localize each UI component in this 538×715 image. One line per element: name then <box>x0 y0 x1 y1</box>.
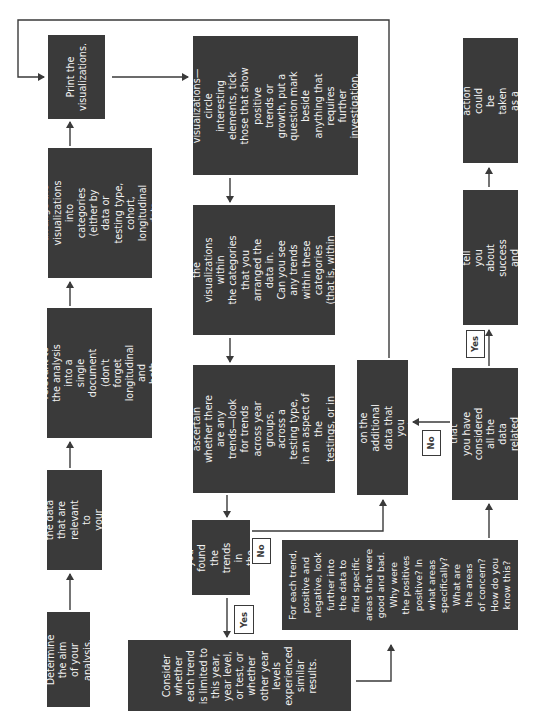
box-copy-visualizations: Copy the visualizations that are relevan… <box>47 308 152 438</box>
box-text: Next, look across categories to ascertai… <box>193 394 335 465</box>
box-text: Choose the data that are relevant to you… <box>47 499 102 541</box>
box-decide-additional-data: Decide on the additional data that you r… <box>357 360 408 495</box>
box-choose-data: Choose the data that are relevant to you… <box>47 470 102 570</box>
box-for-each-trend: For each trend, positive and negative, l… <box>282 540 518 630</box>
box-text: Analyze the annotations that you have ma… <box>193 235 335 306</box>
box-arrange-categories: In this document, arrange the visualizat… <box>48 148 152 278</box>
label-text: Yes <box>470 336 480 352</box>
box-text: Copy the visualizations that are relevan… <box>47 341 152 406</box>
box-text: Consider whether each trend is limited t… <box>160 646 319 705</box>
box-analyze-annotations: Analyze the annotations that you have ma… <box>193 205 335 335</box>
label-text: No <box>257 545 267 558</box>
box-determine-aim: Determine the aim of your analysis. <box>47 612 90 707</box>
box-text: Are you satisfied that you have consider… <box>452 408 518 461</box>
box-consider-whether: Consider whether each trend is limited t… <box>128 640 351 711</box>
box-next-look-across: Next, look across categories to ascertai… <box>193 365 335 493</box>
label-text: Yes <box>239 611 249 627</box>
box-text: Decide on the additional data that you r… <box>357 404 408 452</box>
box-found-trends-decision: Have you found the trends in the data? <box>192 520 250 595</box>
box-text: Consider the information in each of the … <box>193 64 358 147</box>
box-text: What do the trends tell you about succes… <box>463 236 518 279</box>
box-what-steps-action: What steps for action could be taken as … <box>463 38 518 163</box>
label-yes-satisfied: Yes <box>466 330 485 358</box>
box-text: What steps for action could be taken as … <box>463 86 518 116</box>
box-text: Have you found the trends in the data? <box>192 542 250 573</box>
arrow-whether-to-foreach <box>356 645 391 681</box>
label-no-satisfied: No <box>422 430 441 456</box>
box-print-visualizations: Print the visualizations. <box>48 35 105 119</box>
box-text: Determine the aim of your analysis. <box>47 634 90 685</box>
box-text: Print the visualizations. <box>64 43 88 111</box>
label-yes-found: Yes <box>234 605 254 634</box>
label-text: No <box>427 437 437 450</box>
arrow-found-no-to-decide <box>252 500 383 531</box>
label-no-found: No <box>252 538 271 564</box>
box-consider-information: Consider the information in each of the … <box>193 36 358 175</box>
box-satisfied-decision: Are you satisfied that you have consider… <box>452 368 518 500</box>
box-text: For each trend, positive and negative, l… <box>287 549 514 621</box>
box-text: In this document, arrange the visualizat… <box>48 181 152 246</box>
box-what-trends-tell: What do the trends tell you about succes… <box>463 190 518 325</box>
